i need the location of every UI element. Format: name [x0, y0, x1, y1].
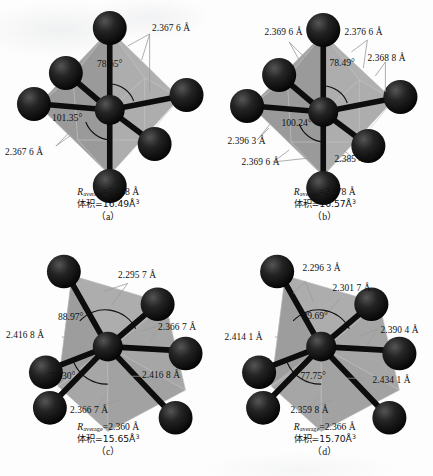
bond-label: 2.368 8 Å [368, 54, 406, 64]
atom-spheres-b [230, 13, 417, 205]
panel-c-caption: Raverage=2.360 Å 体积=15.65Å3 （c） [0, 421, 217, 459]
panel-letter: （c） [0, 446, 217, 459]
bond-label: 2.366 7 Å [70, 406, 108, 416]
r-average-subscript: average [83, 190, 103, 197]
r-average-value: =2.368 Å [103, 186, 139, 197]
bond-label: 2.434 1 Å [373, 376, 411, 386]
panel-d: 2.296 3 Å 2.301 7 Å 2.390 4 Å 2.414 1 Å … [217, 238, 433, 476]
volume-label: 体积 [294, 198, 312, 209]
bond-label: 2.369 6 Å [242, 158, 280, 168]
bond-label: 2.414 1 Å [225, 333, 263, 343]
bond-label: 2.295 7 Å [118, 271, 156, 281]
panel-a-caption: Raverage=2.368 Å 体积=16.49Å3 （a） [0, 186, 217, 224]
bond-label: 2.369 6 Å [265, 28, 303, 38]
volume-exponent: 3 [352, 433, 356, 440]
panel-letter: （d） [217, 446, 433, 459]
panel-a: 2.367 6 Å 2.367 6 Å 78.65° 101.35° Raver… [0, 0, 217, 238]
volume-value: =16.49Å [95, 198, 135, 209]
r-average-value: =2.360 Å [103, 421, 139, 432]
panel-b-caption: Raverage=2.378 Å 体积=16.57Å3 （b） [217, 186, 433, 224]
panel-b: 2.369 6 Å 2.376 6 Å 2.368 8 Å 2.396 3 Å … [217, 0, 433, 238]
volume-label: 体积 [77, 198, 95, 209]
atom-spheres-a [17, 11, 204, 203]
volume-exponent: 3 [352, 198, 356, 205]
bond-label: 2.366 7 Å [158, 323, 196, 333]
r-average-value: =2.366 Å [319, 421, 355, 432]
panel-letter: （b） [217, 211, 433, 224]
r-average-subscript: average [83, 425, 103, 432]
panel-letter: （a） [0, 211, 217, 224]
angle-label: 101.35° [52, 112, 82, 123]
volume-label: 体积 [294, 433, 312, 444]
bond-label: 2.296 3 Å [303, 264, 341, 274]
r-average-subscript: average [300, 425, 320, 432]
volume-value: =15.70Å [312, 433, 352, 444]
angle-label: 78.49° [330, 57, 355, 68]
volume-value: =15.65Å [95, 433, 135, 444]
angle-label: 77.75° [301, 370, 326, 381]
angle-label: 100.24° [282, 117, 312, 128]
bond-label: 2.359 8 Å [291, 406, 329, 416]
volume-exponent: 3 [135, 198, 139, 205]
r-average-value: =2.378 Å [319, 186, 355, 197]
angle-label: 78.65° [97, 58, 122, 69]
volume-value: =16.57Å [312, 198, 352, 209]
angle-label: 78.30° [50, 370, 75, 381]
bond-label: 2.367 6 Å [5, 148, 43, 158]
volume-label: 体积 [77, 433, 95, 444]
bond-label: 2.376 6 Å [345, 28, 383, 38]
bond-label: 2.385 4 Å [335, 155, 373, 165]
volume-exponent: 3 [135, 433, 139, 440]
bond-label: 2.396 3 Å [228, 137, 266, 147]
bond-label: 2.416 8 Å [142, 371, 180, 381]
figure-grid: 2.367 6 Å 2.367 6 Å 78.65° 101.35° Raver… [0, 0, 433, 476]
r-average-subscript: average [300, 190, 320, 197]
panel-c: 2.295 7 Å 2.366 7 Å 2.416 8 Å 2.416 8 Å … [0, 238, 217, 476]
panel-d-caption: Raverage=2.366 Å 体积=15.70Å3 （d） [217, 421, 433, 459]
angle-label: 89.69° [303, 310, 328, 321]
bond-label: 2.416 8 Å [6, 331, 44, 341]
bond-label: 2.301 7 Å [333, 284, 371, 294]
bond-label: 2.367 6 Å [152, 24, 190, 34]
angle-label: 88.97° [58, 311, 83, 322]
bond-label: 2.390 4 Å [381, 326, 419, 336]
